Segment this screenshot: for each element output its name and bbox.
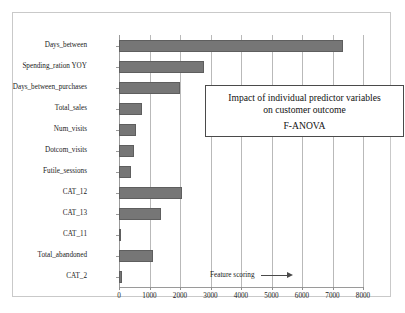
bar-row: [119, 203, 363, 224]
y-tick: [116, 67, 119, 68]
y-axis-label-futile-sessions: Futile_sessions: [0, 167, 87, 175]
x-tick-7000: [333, 287, 334, 290]
y-tick: [116, 172, 119, 173]
chart-title-line-2: on customer outcome: [206, 104, 403, 116]
y-axis-label-cat-11: CAT_11: [0, 230, 87, 238]
bar-row: [119, 182, 363, 203]
y-tick: [116, 256, 119, 257]
right-arrow-icon: [261, 272, 295, 279]
x-tick-2000: [180, 287, 181, 290]
bar-row: [119, 245, 363, 266]
y-axis-label-num-visits: Num_visits: [0, 125, 87, 133]
y-axis-label-spending-ration-yoy: Spending_ration YOY: [0, 62, 87, 70]
y-axis-label-dotcom-visits: Dotcom_visits: [0, 146, 87, 154]
bar-cat-11: [119, 229, 121, 241]
y-axis-label-cat-13: CAT_13: [0, 209, 87, 217]
figure-frame: Days_betweenSpending_ration YOYDays_betw…: [12, 12, 391, 297]
bar-row: [119, 224, 363, 245]
bar-total-abandoned: [119, 250, 153, 262]
bar-row: [119, 56, 363, 77]
plot-area: [119, 35, 363, 287]
y-axis-label-total-sales: Total_sales: [0, 104, 87, 112]
x-tick-label-0: 0: [117, 292, 121, 300]
bar-days-between: [119, 40, 343, 52]
x-tick-label-6000: 6000: [295, 292, 309, 300]
x-tick-label-1000: 1000: [142, 292, 156, 300]
x-tick-label-5000: 5000: [264, 292, 278, 300]
feature-scoring-annotation: Feature scoring: [210, 271, 295, 279]
bar-dotcom-visits: [119, 145, 134, 157]
chart-subtitle: F-ANOVA: [206, 120, 403, 132]
gridline-8000: [363, 35, 364, 287]
y-axis-label-days-between-purchases: Days_between_purchases: [0, 83, 87, 91]
y-tick: [116, 214, 119, 215]
bar-cat-2: [119, 271, 122, 283]
chart-figure: Days_betweenSpending_ration YOYDays_betw…: [0, 0, 405, 313]
y-tick: [116, 277, 119, 278]
x-tick-1000: [150, 287, 151, 290]
x-tick-0: [119, 287, 120, 290]
chart-title-box: Impact of individual predictor variables…: [205, 85, 404, 137]
x-tick-3000: [211, 287, 212, 290]
y-axis-label-cat-12: CAT_12: [0, 188, 87, 196]
bar-row: [119, 140, 363, 161]
y-axis-label-total-abandoned: Total_abandoned: [0, 251, 87, 259]
bar-cat-12: [119, 187, 182, 199]
y-tick: [116, 46, 119, 47]
x-tick-label-3000: 3000: [203, 292, 217, 300]
y-tick: [116, 109, 119, 110]
bar-num-visits: [119, 124, 136, 136]
feature-scoring-label: Feature scoring: [210, 271, 255, 279]
chart-title-line-1: Impact of individual predictor variables: [206, 92, 403, 104]
bar-spending-ration-yoy: [119, 61, 204, 73]
y-tick: [116, 235, 119, 236]
x-tick-label-4000: 4000: [234, 292, 248, 300]
x-tick-6000: [302, 287, 303, 290]
bar-cat-13: [119, 208, 161, 220]
x-tick-5000: [272, 287, 273, 290]
x-axis: [119, 287, 363, 288]
bar-days-between-purchases: [119, 82, 180, 94]
bar-rows: [119, 35, 363, 287]
bar-futile-sessions: [119, 166, 131, 178]
bar-total-sales: [119, 103, 142, 115]
y-tick: [116, 130, 119, 131]
y-tick: [116, 88, 119, 89]
bar-row: [119, 161, 363, 182]
y-axis-label-cat-2: CAT_2: [0, 272, 87, 280]
x-tick-label-8000: 8000: [356, 292, 370, 300]
x-tick-4000: [241, 287, 242, 290]
y-tick: [116, 151, 119, 152]
y-axis-label-days-between: Days_between: [0, 41, 87, 49]
y-tick: [116, 193, 119, 194]
x-tick-label-7000: 7000: [325, 292, 339, 300]
x-tick-8000: [363, 287, 364, 290]
x-tick-label-2000: 2000: [173, 292, 187, 300]
bar-row: [119, 35, 363, 56]
